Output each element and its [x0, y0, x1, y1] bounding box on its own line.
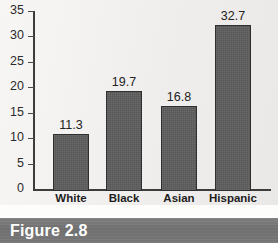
- y-tick-mark: [28, 164, 34, 165]
- y-tick-mark: [28, 11, 34, 12]
- y-tick-label: 15: [0, 106, 24, 119]
- figure-container: 35 30 25 20 15 10 5 0 11.3: [0, 0, 278, 243]
- bar-hispanic[interactable]: 32.7: [215, 25, 251, 191]
- bar-value-label: 32.7: [221, 10, 245, 23]
- chart-plot-area: 35 30 25 20 15 10 5 0 11.3: [0, 0, 278, 205]
- y-tick-label: 10: [0, 131, 24, 144]
- category-label-asian: Asian: [151, 193, 207, 205]
- caption-spacer: [0, 205, 278, 218]
- y-tick-label: 35: [0, 4, 24, 17]
- bar-white[interactable]: 11.3: [53, 134, 89, 192]
- y-tick-mark: [28, 138, 34, 139]
- y-tick-label: 25: [0, 55, 24, 68]
- y-tick-mark: [28, 113, 34, 114]
- bar-asian[interactable]: 16.8: [161, 106, 197, 191]
- y-tick-label: 30: [0, 29, 24, 42]
- y-tick-label: 5: [0, 157, 24, 170]
- y-tick-label: 0: [0, 182, 24, 195]
- y-tick-mark: [28, 36, 34, 37]
- category-label-black: Black: [96, 193, 152, 205]
- figure-caption-bar: Figure 2.8: [0, 218, 278, 243]
- bar-value-label: 16.8: [167, 91, 191, 104]
- category-label-hispanic: Hispanic: [205, 193, 261, 205]
- figure-caption-label: Figure 2.8: [10, 221, 88, 240]
- bar-value-label: 19.7: [112, 76, 136, 89]
- bar-black[interactable]: 19.7: [106, 91, 142, 191]
- category-label-white: White: [43, 193, 99, 205]
- y-tick-mark: [28, 87, 34, 88]
- y-tick-label: 20: [0, 80, 24, 93]
- y-tick-mark: [28, 62, 34, 63]
- bar-value-label: 11.3: [59, 119, 82, 132]
